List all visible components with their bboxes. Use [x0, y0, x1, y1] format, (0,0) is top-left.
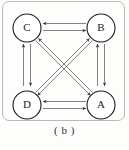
node-label-C: C — [23, 21, 30, 33]
edge-B-C — [43, 24, 86, 31]
edge-B-D — [36, 39, 93, 96]
edge-C-D — [24, 44, 31, 86]
node-C[interactable]: C — [13, 14, 41, 42]
edge-C-A — [36, 39, 93, 96]
node-label-D: D — [23, 98, 31, 110]
node-label-B: B — [97, 21, 104, 33]
node-D[interactable]: D — [13, 91, 41, 119]
figure-caption: ( b ) — [0, 124, 129, 136]
node-B[interactable]: B — [87, 14, 115, 42]
edge-A-D — [43, 102, 86, 109]
node-A[interactable]: A — [87, 91, 115, 119]
figure-container: C B D A ( b ) — [0, 0, 129, 150]
node-label-A: A — [97, 98, 105, 110]
edge-B-A — [98, 44, 105, 86]
